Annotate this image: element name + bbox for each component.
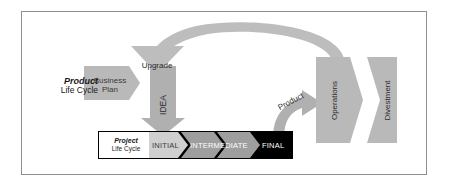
operations-label: Operations xyxy=(322,58,348,142)
diagram-canvas: Product Life Cycle Business Plan Upgrade… xyxy=(0,0,449,187)
business-plan-label-line2: Plan xyxy=(88,85,132,94)
project-lifecycle-lane-label: Project Life Cycle xyxy=(103,137,149,153)
upgrade-connector-label: Upgrade xyxy=(133,61,181,70)
idea-label-text: IDEA xyxy=(158,95,168,115)
project-lane-label-normal: Life Cycle xyxy=(103,145,149,152)
business-plan-label-line1: Business xyxy=(88,76,132,85)
idea-label: IDEA xyxy=(141,83,185,127)
project-stage-label-final: FINAL xyxy=(262,141,284,150)
operations-label-text: Operations xyxy=(331,80,340,119)
business-plan-label: Business Plan xyxy=(88,76,132,94)
product-connector-label-text: Product xyxy=(277,91,306,112)
product-connector-label: Product xyxy=(268,92,314,110)
project-stage-label-intermediate: INTERMEDIATE xyxy=(190,141,248,150)
project-lane-label-bold: Project xyxy=(103,137,149,145)
project-stage-label-initial: INITIAL xyxy=(152,141,179,150)
divestment-label: Divestment xyxy=(374,58,400,142)
divestment-label-text: Divestment xyxy=(383,80,392,120)
